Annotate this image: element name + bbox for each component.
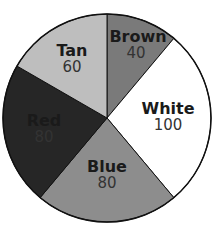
label-value: 80 — [97, 174, 116, 192]
label-value: 60 — [62, 58, 81, 76]
label-value: 100 — [154, 116, 183, 134]
label-value: 40 — [126, 44, 145, 62]
label-value: 80 — [34, 128, 53, 146]
pie-chart: Brown 40 White 100 Blue 80 Red 80 Tan 60 — [0, 0, 216, 228]
